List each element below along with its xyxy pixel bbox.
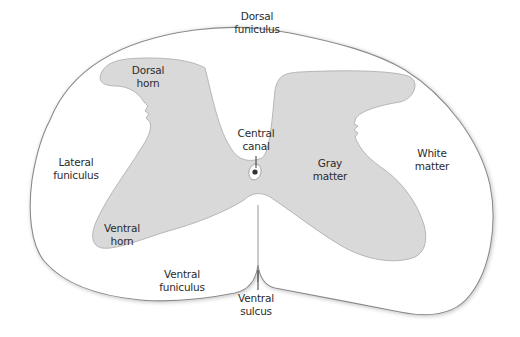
label-dorsal-horn: Dorsal horn: [132, 64, 164, 89]
label-white-matter: White matter: [415, 147, 449, 172]
label-dorsal-funiculus: Dorsal funiculus: [234, 10, 280, 35]
central-canal-dot: [252, 169, 257, 174]
label-ventral-sulcus: Ventral sulcus: [238, 292, 274, 317]
spinal-cord-diagram: Dorsal funiculus Dorsal horn Central can…: [0, 0, 520, 337]
label-gray-matter: Gray matter: [313, 157, 347, 182]
label-central-canal: Central canal: [238, 127, 275, 152]
label-lateral-funiculus: Lateral funiculus: [53, 156, 99, 181]
label-ventral-horn: Ventral horn: [104, 222, 140, 247]
label-ventral-funiculus: Ventral funiculus: [159, 268, 205, 293]
